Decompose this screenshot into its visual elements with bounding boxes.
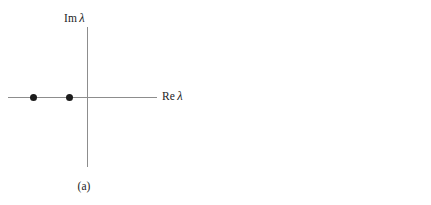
imaginary-axis-label-text: Im xyxy=(64,12,77,24)
panel-b: Imλ Reλ (b) xyxy=(215,0,431,205)
eigenvalue-figure: Imλ Reλ (a) Imλ Reλ (b) xyxy=(0,0,431,205)
real-axis-label-text: Re xyxy=(162,90,175,102)
real-axis-label: Reλ xyxy=(162,90,183,103)
imaginary-axis-label: Imλ xyxy=(64,12,85,25)
eigenvalue-dot xyxy=(66,94,73,101)
imaginary-axis-line xyxy=(87,27,88,167)
lambda-symbol: λ xyxy=(77,11,85,25)
panel-caption-a: (a) xyxy=(62,180,106,193)
panel-a: Imλ Reλ (a) xyxy=(0,0,215,205)
lambda-symbol: λ xyxy=(175,89,183,103)
eigenvalue-dot xyxy=(30,94,37,101)
